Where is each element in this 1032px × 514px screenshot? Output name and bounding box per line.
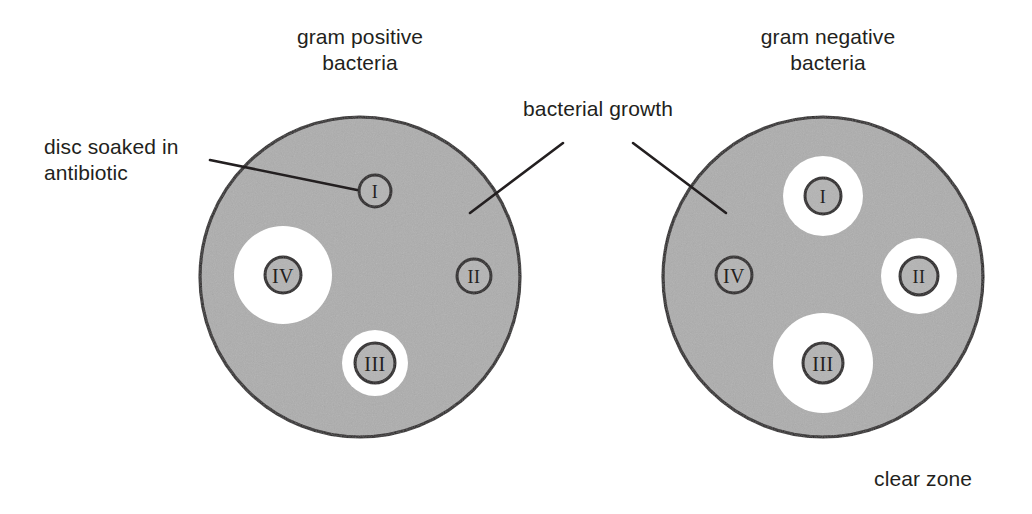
caption-gram-negative: gram negative bacteria bbox=[700, 24, 956, 76]
disc-right-IV: IV bbox=[716, 257, 752, 293]
caption-bacterial-growth: bacterial growth bbox=[470, 96, 726, 122]
disc-label: IV bbox=[723, 265, 745, 287]
caption-disc-soaked-in-antibiotic: disc soaked in antibiotic bbox=[44, 134, 254, 186]
caption-gram-positive: gram positive bacteria bbox=[232, 24, 488, 76]
disc-label: III bbox=[812, 353, 833, 375]
disc-left-IV: IV bbox=[265, 257, 301, 293]
disc-label: I bbox=[372, 182, 379, 202]
disc-label: III bbox=[364, 353, 385, 375]
disc-label: I bbox=[820, 187, 827, 207]
disc-left-I: I bbox=[359, 175, 391, 207]
disc-label: II bbox=[468, 267, 481, 287]
disc-right-II: II bbox=[900, 257, 938, 295]
disc-right-III: III bbox=[803, 343, 843, 383]
disc-right-I: I bbox=[805, 178, 841, 214]
disc-label: IV bbox=[272, 265, 294, 287]
diagram-canvas: I II III IV I bbox=[0, 0, 1032, 514]
plate-gram-negative: I II III IV bbox=[663, 117, 983, 437]
disc-left-III: III bbox=[355, 343, 395, 383]
caption-clear-zone: clear zone bbox=[760, 466, 972, 492]
disc-label: II bbox=[913, 267, 926, 287]
antibiotic-disc-diffusion-figure: I II III IV I bbox=[0, 0, 1032, 514]
disc-left-II: II bbox=[457, 259, 491, 293]
